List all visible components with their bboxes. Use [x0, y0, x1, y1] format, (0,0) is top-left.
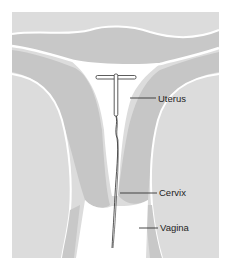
label-cervix: Cervix: [159, 187, 186, 198]
label-uterus: Uterus: [158, 93, 186, 104]
iud-stem: [114, 74, 118, 116]
iud-uterus-diagram: Uterus Cervix Vagina: [0, 0, 227, 269]
label-vagina: Vagina: [160, 222, 190, 233]
vaginal-canal: [76, 200, 148, 258]
